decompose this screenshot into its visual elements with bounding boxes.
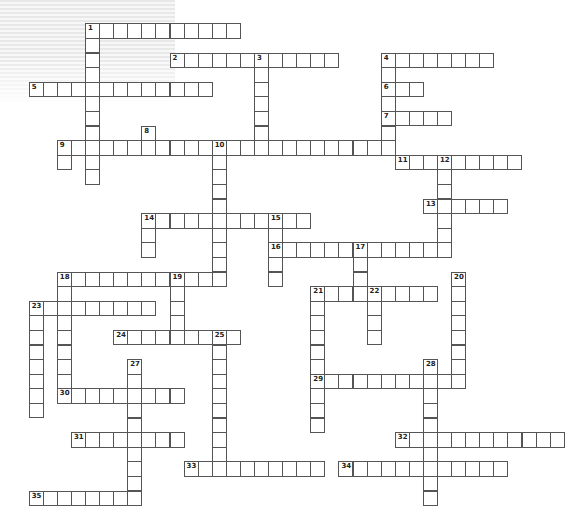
crossword-cell[interactable] bbox=[493, 461, 508, 477]
crossword-cell[interactable] bbox=[127, 461, 142, 477]
crossword-cell[interactable] bbox=[254, 140, 269, 156]
crossword-cell[interactable] bbox=[522, 432, 537, 448]
crossword-cell[interactable] bbox=[85, 53, 100, 69]
crossword-cell[interactable]: 14 bbox=[141, 213, 156, 229]
crossword-cell[interactable] bbox=[240, 461, 255, 477]
crossword-cell[interactable]: 9 bbox=[57, 140, 72, 156]
crossword-cell[interactable] bbox=[353, 461, 368, 477]
crossword-cell[interactable] bbox=[57, 315, 72, 331]
crossword-cell[interactable] bbox=[71, 272, 86, 288]
crossword-cell[interactable] bbox=[240, 213, 255, 229]
crossword-cell[interactable] bbox=[437, 461, 452, 477]
crossword-cell[interactable] bbox=[127, 301, 142, 317]
crossword-cell[interactable]: 1 bbox=[85, 23, 100, 39]
crossword-cell[interactable] bbox=[155, 82, 170, 98]
crossword-cell[interactable] bbox=[85, 169, 100, 185]
crossword-cell[interactable] bbox=[170, 301, 185, 317]
crossword-cell[interactable] bbox=[254, 213, 269, 229]
crossword-cell[interactable] bbox=[226, 140, 241, 156]
crossword-cell[interactable] bbox=[479, 461, 494, 477]
crossword-cell[interactable] bbox=[184, 23, 199, 39]
crossword-cell[interactable] bbox=[423, 242, 438, 258]
crossword-cell[interactable] bbox=[437, 184, 452, 200]
crossword-cell[interactable] bbox=[367, 330, 382, 346]
crossword-cell[interactable] bbox=[324, 242, 339, 258]
crossword-cell[interactable] bbox=[155, 213, 170, 229]
crossword-cell[interactable] bbox=[479, 53, 494, 69]
crossword-cell[interactable] bbox=[57, 359, 72, 375]
crossword-cell[interactable] bbox=[324, 53, 339, 69]
crossword-cell[interactable] bbox=[451, 155, 466, 171]
crossword-cell[interactable] bbox=[282, 242, 297, 258]
crossword-cell[interactable] bbox=[127, 330, 142, 346]
crossword-cell[interactable]: 34 bbox=[338, 461, 353, 477]
crossword-cell[interactable] bbox=[85, 155, 100, 171]
crossword-cell[interactable] bbox=[353, 140, 368, 156]
crossword-cell[interactable] bbox=[155, 432, 170, 448]
crossword-cell[interactable] bbox=[127, 388, 142, 404]
crossword-cell[interactable] bbox=[451, 345, 466, 361]
crossword-cell[interactable] bbox=[353, 272, 368, 288]
crossword-cell[interactable] bbox=[85, 82, 100, 98]
crossword-cell[interactable]: 11 bbox=[395, 155, 410, 171]
crossword-cell[interactable]: 28 bbox=[423, 359, 438, 375]
crossword-cell[interactable] bbox=[43, 82, 58, 98]
crossword-cell[interactable] bbox=[437, 111, 452, 127]
crossword-cell[interactable] bbox=[198, 140, 213, 156]
crossword-cell[interactable] bbox=[338, 140, 353, 156]
crossword-cell[interactable] bbox=[29, 374, 44, 390]
crossword-cell[interactable] bbox=[310, 301, 325, 317]
crossword-cell[interactable] bbox=[381, 374, 396, 390]
crossword-cell[interactable]: 30 bbox=[57, 388, 72, 404]
crossword-cell[interactable] bbox=[409, 242, 424, 258]
crossword-cell[interactable] bbox=[423, 53, 438, 69]
crossword-cell[interactable] bbox=[395, 242, 410, 258]
crossword-cell[interactable] bbox=[465, 199, 480, 215]
crossword-cell[interactable] bbox=[212, 257, 227, 273]
crossword-cell[interactable] bbox=[184, 272, 199, 288]
crossword-cell[interactable] bbox=[409, 53, 424, 69]
crossword-cell[interactable]: 18 bbox=[57, 272, 72, 288]
crossword-cell[interactable]: 32 bbox=[395, 432, 410, 448]
crossword-cell[interactable] bbox=[212, 432, 227, 448]
crossword-cell[interactable] bbox=[198, 82, 213, 98]
crossword-cell[interactable] bbox=[324, 286, 339, 302]
crossword-cell[interactable] bbox=[127, 418, 142, 434]
crossword-cell[interactable] bbox=[99, 82, 114, 98]
crossword-cell[interactable] bbox=[353, 374, 368, 390]
crossword-cell[interactable] bbox=[493, 432, 508, 448]
crossword-cell[interactable] bbox=[85, 140, 100, 156]
crossword-cell[interactable] bbox=[254, 67, 269, 83]
crossword-cell[interactable] bbox=[57, 491, 72, 507]
crossword-cell[interactable] bbox=[141, 140, 156, 156]
crossword-cell[interactable] bbox=[85, 491, 100, 507]
crossword-cell[interactable] bbox=[113, 140, 128, 156]
crossword-cell[interactable] bbox=[212, 345, 227, 361]
crossword-cell[interactable] bbox=[451, 53, 466, 69]
crossword-cell[interactable] bbox=[423, 155, 438, 171]
crossword-cell[interactable]: 20 bbox=[451, 272, 466, 288]
crossword-cell[interactable] bbox=[451, 301, 466, 317]
crossword-cell[interactable]: 7 bbox=[381, 111, 396, 127]
crossword-cell[interactable] bbox=[212, 388, 227, 404]
crossword-cell[interactable] bbox=[493, 199, 508, 215]
crossword-cell[interactable] bbox=[226, 461, 241, 477]
crossword-cell[interactable] bbox=[254, 96, 269, 112]
crossword-cell[interactable] bbox=[493, 155, 508, 171]
crossword-cell[interactable] bbox=[282, 140, 297, 156]
crossword-cell[interactable] bbox=[367, 301, 382, 317]
crossword-cell[interactable] bbox=[170, 82, 185, 98]
crossword-cell[interactable]: 17 bbox=[353, 242, 368, 258]
crossword-cell[interactable] bbox=[71, 301, 86, 317]
crossword-cell[interactable] bbox=[212, 418, 227, 434]
crossword-cell[interactable] bbox=[212, 359, 227, 375]
crossword-cell[interactable]: 4 bbox=[381, 53, 396, 69]
crossword-cell[interactable] bbox=[212, 53, 227, 69]
crossword-cell[interactable] bbox=[310, 461, 325, 477]
crossword-cell[interactable] bbox=[71, 140, 86, 156]
crossword-cell[interactable] bbox=[57, 286, 72, 302]
crossword-cell[interactable] bbox=[57, 155, 72, 171]
crossword-cell[interactable]: 31 bbox=[71, 432, 86, 448]
crossword-cell[interactable] bbox=[127, 272, 142, 288]
crossword-cell[interactable] bbox=[212, 184, 227, 200]
